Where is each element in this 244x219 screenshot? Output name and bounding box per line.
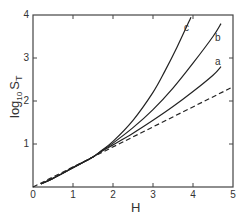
x-tick-label: 3 bbox=[150, 189, 156, 200]
x-tick-label: 4 bbox=[190, 189, 196, 200]
axis-ticks bbox=[33, 15, 233, 187]
x-tick-label: 5 bbox=[230, 189, 236, 200]
y-tick-label: 1 bbox=[23, 138, 29, 149]
y-label-var: S bbox=[7, 81, 22, 90]
x-tick-label: 0 bbox=[30, 189, 36, 200]
chart: 0123451234 c b a H log10ST bbox=[0, 0, 244, 219]
y-tick-label: 2 bbox=[23, 95, 29, 106]
y-tick-label: 3 bbox=[23, 52, 29, 63]
svg-text:log10ST: log10ST bbox=[7, 75, 24, 118]
x-axis-label: H bbox=[131, 200, 140, 215]
curve-asymptote bbox=[33, 87, 233, 187]
x-tick-label: 2 bbox=[110, 189, 116, 200]
curve-c bbox=[41, 17, 191, 184]
y-label-sub: 10 bbox=[15, 91, 24, 100]
y-label-var-sub: T bbox=[14, 75, 24, 81]
curve-label-a: a bbox=[215, 56, 221, 67]
x-tick-label: 1 bbox=[70, 189, 76, 200]
y-label-log: log bbox=[7, 101, 22, 118]
y-axis-label: log10ST bbox=[7, 75, 24, 118]
curve-label-c: c bbox=[184, 22, 189, 33]
plot-frame bbox=[33, 15, 233, 187]
y-tick-label: 4 bbox=[23, 9, 29, 20]
curve-label-b: b bbox=[215, 32, 221, 43]
tick-labels: 0123451234 bbox=[23, 9, 236, 200]
curves bbox=[33, 17, 233, 187]
curve-a bbox=[41, 67, 221, 184]
curve-b bbox=[41, 24, 221, 184]
